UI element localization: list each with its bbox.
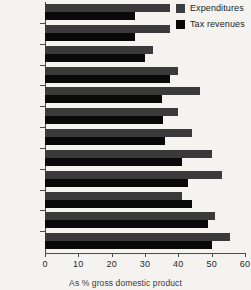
bar-expenditures: [45, 212, 215, 220]
bar-tax-revenues: [45, 75, 170, 83]
chart-legend: Expenditures Tax revenues: [176, 3, 245, 35]
bar-expenditures: [45, 192, 182, 200]
bar-expenditures: [45, 150, 212, 158]
bar-tax-revenues: [45, 179, 188, 187]
legend-label-tax-revenues: Tax revenues: [190, 19, 245, 29]
legend-label-expenditures: Expenditures: [190, 3, 244, 13]
legend-item-expenditures: Expenditures: [176, 3, 245, 13]
x-axis-tick-label: 0: [42, 259, 47, 269]
x-axis-tick: [112, 253, 113, 257]
bar-expenditures: [45, 129, 192, 137]
bar-expenditures: [45, 87, 200, 95]
x-axis-tick: [45, 253, 46, 257]
bar-expenditures: [45, 233, 230, 241]
legend-swatch-icon-expenditures: [176, 4, 185, 13]
bar-tax-revenues: [45, 33, 135, 41]
bar-expenditures: [45, 171, 222, 179]
bar-chart: USAJapanAustraliaCanadaGermanySpainUKIta…: [0, 0, 251, 290]
legend-item-tax-revenues: Tax revenues: [176, 19, 245, 29]
x-axis-tick: [212, 253, 213, 257]
x-axis-tick: [178, 253, 179, 257]
chart-caption: As % gross domestic product: [0, 278, 251, 288]
x-axis-tick-label: 20: [106, 259, 116, 269]
bar-tax-revenues: [45, 158, 182, 166]
bar-tax-revenues: [45, 54, 145, 62]
x-axis-tick-label: 30: [140, 259, 150, 269]
bar-tax-revenues: [45, 200, 192, 208]
x-axis-tick-label: 60: [240, 259, 250, 269]
x-axis-tick: [145, 253, 146, 257]
legend-swatch-icon-tax-revenues: [176, 20, 185, 29]
bar-expenditures: [45, 46, 153, 54]
x-axis-tick: [78, 253, 79, 257]
bar-tax-revenues: [45, 137, 165, 145]
bars-area: [45, 2, 245, 252]
x-axis-tick: [245, 253, 246, 257]
bar-tax-revenues: [45, 95, 162, 103]
x-axis-tick-label: 10: [73, 259, 83, 269]
bar-tax-revenues: [45, 116, 163, 124]
bar-tax-revenues: [45, 241, 212, 249]
bar-tax-revenues: [45, 12, 135, 20]
bar-expenditures: [45, 25, 170, 33]
bar-tax-revenues: [45, 220, 208, 228]
x-axis-tick-label: 40: [173, 259, 183, 269]
bar-expenditures: [45, 4, 170, 12]
bar-expenditures: [45, 108, 178, 116]
x-axis-tick-label: 50: [206, 259, 216, 269]
bar-expenditures: [45, 67, 178, 75]
